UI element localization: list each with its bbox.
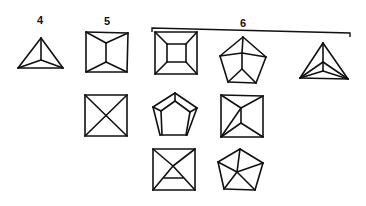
edge xyxy=(173,149,195,166)
edge xyxy=(255,163,263,190)
shape-tetrahedron xyxy=(18,38,63,68)
edge xyxy=(221,108,241,137)
edge xyxy=(237,172,255,190)
edge xyxy=(153,93,175,107)
edge xyxy=(242,69,256,83)
edge xyxy=(323,62,348,79)
edge xyxy=(153,149,173,166)
edge xyxy=(218,149,240,162)
group-label-6: 6 xyxy=(240,17,246,29)
edge xyxy=(218,162,237,172)
edge xyxy=(155,62,167,74)
edge xyxy=(323,43,348,79)
edge xyxy=(221,95,241,108)
edge xyxy=(228,82,256,83)
edge xyxy=(221,95,263,96)
edge xyxy=(161,101,175,111)
edge xyxy=(175,93,197,108)
edge xyxy=(155,32,167,44)
edge xyxy=(220,56,228,82)
shape-triangle-double-center xyxy=(300,43,348,79)
edge xyxy=(153,107,160,135)
edge xyxy=(300,62,323,78)
edge xyxy=(186,32,197,44)
edge xyxy=(161,111,162,135)
group-label-4: 4 xyxy=(37,14,44,26)
edge xyxy=(127,33,128,72)
edge xyxy=(300,78,348,79)
shape-triangular-prism-square-view xyxy=(86,32,128,72)
shape-pentagonal-frustum xyxy=(153,93,197,135)
edge xyxy=(224,189,255,190)
edge xyxy=(242,37,243,53)
edge xyxy=(240,149,263,163)
polyhedra-diagram: 4 5 6 xyxy=(0,0,366,206)
edge xyxy=(241,123,263,137)
edge xyxy=(218,162,224,189)
edge xyxy=(106,62,127,72)
edge xyxy=(86,62,106,72)
edge xyxy=(237,163,263,172)
shape-square-with-triangle xyxy=(153,149,195,190)
edge xyxy=(86,32,128,33)
edge xyxy=(237,149,240,172)
edge xyxy=(186,62,197,74)
shapes-layer xyxy=(18,32,348,190)
edge xyxy=(221,123,241,137)
shape-square-pyramid xyxy=(85,95,127,136)
shape-square-with-split-apex xyxy=(221,95,263,137)
edge xyxy=(224,172,237,189)
shape-cube-like-square-frustum xyxy=(155,32,197,74)
group-label-5: 5 xyxy=(104,15,110,27)
edge xyxy=(256,57,266,83)
edge xyxy=(106,33,128,43)
shape-pentagonal-pyramid xyxy=(218,149,263,190)
edge xyxy=(228,69,242,82)
edge xyxy=(241,96,263,108)
edge xyxy=(86,32,106,43)
shape-pentagon-house xyxy=(220,37,266,83)
